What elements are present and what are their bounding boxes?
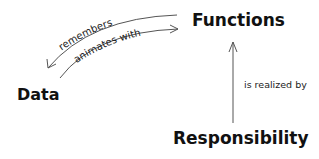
node-functions: Functions (192, 12, 285, 29)
node-responsibility: Responsibility (173, 130, 309, 147)
edge-is-realized-by (229, 42, 237, 123)
edge-label-is-realized-by: is realized by (244, 80, 307, 90)
node-data: Data (17, 87, 60, 103)
